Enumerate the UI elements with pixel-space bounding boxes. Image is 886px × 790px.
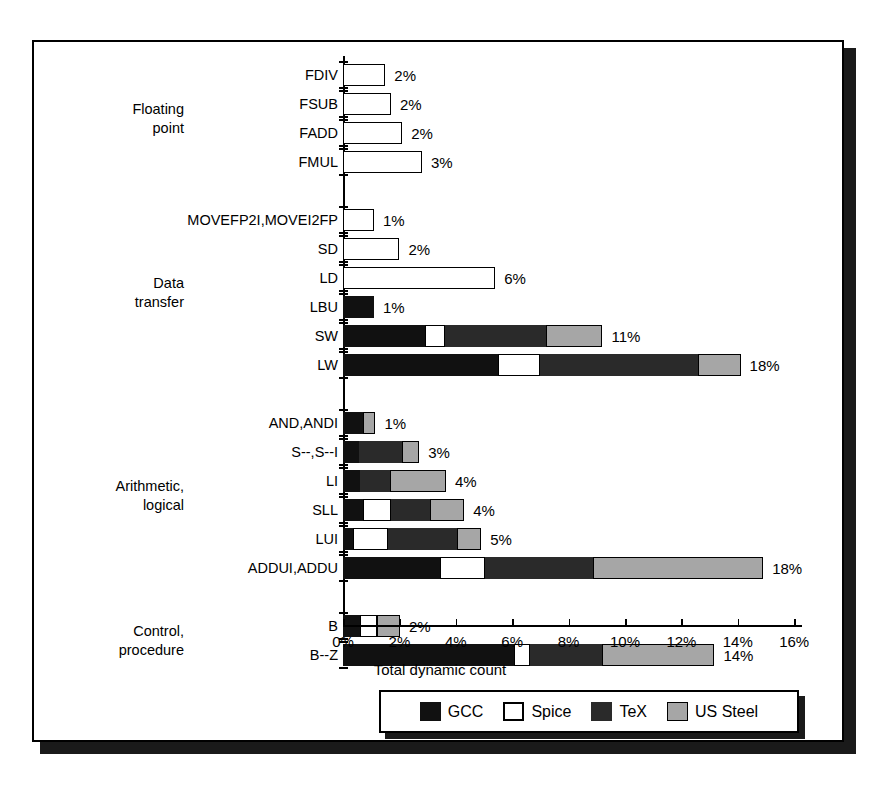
bar-category-label: SW bbox=[315, 328, 338, 344]
x-axis-tick bbox=[794, 619, 796, 626]
bar-segment-gcc bbox=[343, 296, 374, 318]
bar-value-label: 2% bbox=[394, 67, 416, 84]
x-axis-tick bbox=[399, 619, 401, 626]
stacked-bar bbox=[343, 354, 741, 376]
stacked-bar bbox=[343, 267, 495, 289]
y-axis-tick bbox=[339, 90, 348, 92]
bar-segment-gcc bbox=[343, 325, 425, 347]
bar-category-label: S--,S--I bbox=[291, 444, 338, 460]
chart-bar-row: LBU1% bbox=[343, 296, 794, 318]
bar-segment-tex bbox=[485, 557, 592, 579]
x-axis-tick-label: 10% bbox=[610, 633, 640, 650]
bar-segment-spice bbox=[344, 268, 494, 288]
bar-category-label: B bbox=[328, 618, 338, 634]
y-axis-tick bbox=[339, 319, 348, 321]
bar-category-label: FMUL bbox=[299, 154, 338, 170]
y-axis-tick bbox=[339, 293, 348, 295]
x-axis-title: Total dynamic count bbox=[34, 661, 846, 678]
bar-segment-gcc bbox=[343, 412, 363, 434]
bar-value-label: 1% bbox=[383, 299, 405, 316]
stacked-bar bbox=[343, 64, 385, 86]
y-axis-tick bbox=[339, 438, 348, 440]
y-axis-tick bbox=[339, 87, 348, 89]
axis-group-label: Data transfer bbox=[34, 274, 184, 312]
bar-value-label: 4% bbox=[473, 502, 495, 519]
bar-segment-spice bbox=[353, 528, 388, 550]
bar-segment-steel bbox=[390, 470, 446, 492]
x-axis-tick-label: 12% bbox=[666, 633, 696, 650]
x-axis-tick bbox=[625, 619, 627, 626]
chart-bar-row: LD6% bbox=[343, 267, 794, 289]
bar-segment-gcc bbox=[343, 470, 360, 492]
bar-value-label: 4% bbox=[455, 473, 477, 490]
bar-value-label: 3% bbox=[431, 154, 453, 171]
y-axis-tick bbox=[339, 206, 348, 208]
chart-bar-row: FDIV2% bbox=[343, 64, 794, 86]
legend-swatch-spice bbox=[503, 702, 524, 721]
bar-segment-gcc bbox=[343, 354, 498, 376]
y-axis-tick bbox=[339, 580, 348, 582]
chart-bar-row: FADD2% bbox=[343, 122, 794, 144]
axis-group-label: Arithmetic, logical bbox=[34, 477, 184, 515]
stacked-bar bbox=[343, 441, 419, 463]
bar-value-label: 18% bbox=[750, 357, 780, 374]
y-axis-tick bbox=[339, 409, 348, 411]
y-axis-tick bbox=[339, 235, 348, 237]
bar-segment-tex bbox=[388, 528, 457, 550]
y-axis-tick bbox=[339, 261, 348, 263]
chart-bar-row: LI4% bbox=[343, 470, 794, 492]
bar-value-label: 5% bbox=[490, 531, 512, 548]
bar-category-label: SLL bbox=[312, 502, 338, 518]
bar-category-label: LW bbox=[317, 357, 338, 373]
stacked-bar bbox=[343, 557, 763, 579]
bar-segment-steel bbox=[430, 499, 464, 521]
y-axis-tick bbox=[339, 467, 348, 469]
bar-value-label: 6% bbox=[504, 270, 526, 287]
bar-category-label: FDIV bbox=[305, 67, 338, 83]
bar-segment-steel bbox=[402, 441, 419, 463]
chart-bar-row: SLL4% bbox=[343, 499, 794, 521]
legend-swatch-steel bbox=[667, 702, 688, 721]
chart-bar-row: MOVEFP2I,MOVEI2FP1% bbox=[343, 209, 794, 231]
chart-plot-area: Floating pointData transferArithmetic, l… bbox=[34, 42, 846, 744]
y-axis-tick bbox=[339, 554, 348, 556]
x-axis-tick bbox=[456, 619, 458, 626]
bar-segment-tex bbox=[391, 499, 430, 521]
legend-item: GCC bbox=[420, 702, 484, 721]
x-axis-tick bbox=[569, 619, 571, 626]
legend-swatch-tex bbox=[591, 702, 612, 721]
legend-item: Spice bbox=[503, 702, 571, 721]
bar-segment-tex bbox=[360, 470, 390, 492]
y-axis-tick bbox=[339, 264, 348, 266]
bar-segment-gcc bbox=[343, 557, 440, 579]
bar-segment-steel bbox=[363, 412, 376, 434]
y-axis-tick bbox=[339, 148, 348, 150]
bar-value-label: 2% bbox=[411, 125, 433, 142]
bar-value-label: 2% bbox=[400, 96, 422, 113]
x-axis-line bbox=[343, 625, 802, 627]
legend-label: TeX bbox=[619, 703, 647, 721]
y-axis-tick bbox=[339, 174, 348, 176]
x-axis-tick-label: 16% bbox=[779, 633, 809, 650]
stacked-bar bbox=[343, 528, 481, 550]
bar-segment-spice bbox=[440, 557, 485, 579]
y-axis-tick bbox=[339, 522, 348, 524]
stacked-bar bbox=[343, 296, 374, 318]
x-axis-tick-label: 6% bbox=[501, 633, 523, 650]
bar-segment-spice bbox=[344, 152, 421, 172]
bar-value-label: 11% bbox=[611, 328, 640, 345]
bar-segment-steel bbox=[546, 325, 602, 347]
legend-label: US Steel bbox=[695, 703, 758, 721]
y-axis-tick bbox=[339, 525, 348, 527]
y-axis-tick bbox=[339, 351, 348, 353]
y-axis-tick bbox=[339, 119, 348, 121]
x-axis-tick-label: 4% bbox=[445, 633, 467, 650]
bar-segment-steel bbox=[457, 528, 481, 550]
chart-bar-row: S--,S--I3% bbox=[343, 441, 794, 463]
stacked-bar bbox=[343, 122, 402, 144]
bar-segment-gcc bbox=[343, 441, 359, 463]
chart-figure-frame: Floating pointData transferArithmetic, l… bbox=[32, 40, 844, 742]
chart-bar-row: FSUB2% bbox=[343, 93, 794, 115]
bar-segment-tex bbox=[359, 441, 403, 463]
bar-segment-tex bbox=[540, 354, 698, 376]
